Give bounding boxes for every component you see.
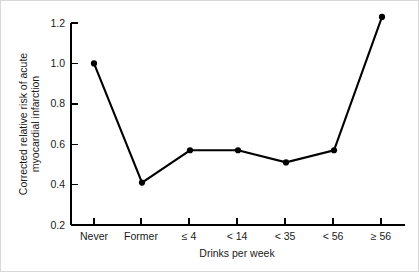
y-tick-label: 1.2 — [50, 17, 65, 29]
data-point-group — [91, 14, 385, 186]
x-axis-tick-labels: Never Former ≤ 4 < 14 < 35 < 56 ≥ 56 — [80, 230, 391, 242]
x-tick-label: Former — [124, 230, 158, 242]
y-tick-label: 0.8 — [50, 97, 65, 109]
data-series-line — [94, 17, 382, 183]
y-axis-title-line1: Corrected relative risk of acute — [17, 53, 29, 196]
x-tick-label: ≥ 56 — [371, 230, 392, 242]
x-tick-label: < 56 — [323, 230, 344, 242]
data-point — [379, 14, 385, 20]
data-point — [235, 147, 241, 153]
chart-figure: 0.2 0.4 0.6 0.8 1.0 1.2 Never Former ≤ 4… — [0, 0, 419, 272]
x-axis-title: Drinks per week — [199, 247, 275, 259]
data-point — [283, 159, 289, 165]
line-chart-canvas: 0.2 0.4 0.6 0.8 1.0 1.2 Never Former ≤ 4… — [1, 1, 419, 272]
x-tick-label: < 14 — [227, 230, 248, 242]
y-axis-tick-labels: 0.2 0.4 0.6 0.8 1.0 1.2 — [50, 17, 65, 231]
y-tick-label: 0.4 — [50, 178, 65, 190]
y-tick-label: 1.0 — [50, 57, 65, 69]
data-point — [91, 60, 97, 66]
data-point — [187, 147, 193, 153]
y-tick-label: 0.6 — [50, 138, 65, 150]
y-tick-label: 0.2 — [50, 219, 65, 231]
data-point — [139, 179, 145, 185]
x-tick-label: Never — [80, 230, 109, 242]
y-axis-title: Corrected relative risk of acute myocard… — [17, 53, 41, 196]
y-axis-title-line2: myocardial infarction — [29, 76, 41, 172]
y-axis-ticks — [71, 23, 78, 225]
x-axis-ticks — [94, 218, 381, 225]
x-tick-label: < 35 — [275, 230, 296, 242]
data-point — [331, 147, 337, 153]
x-tick-label: ≤ 4 — [182, 230, 197, 242]
